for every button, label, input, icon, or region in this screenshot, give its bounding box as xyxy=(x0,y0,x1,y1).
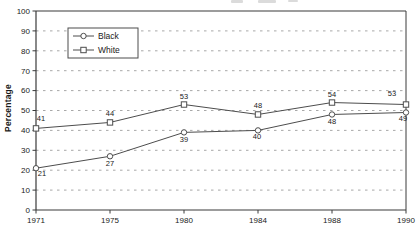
legend-marker-black xyxy=(81,33,86,38)
y-tick-label: 70 xyxy=(21,67,30,76)
legend-label-black: Black xyxy=(98,31,120,41)
y-tick-label: 100 xyxy=(17,7,31,16)
data-point-label: 48 xyxy=(254,101,262,110)
data-point-label: 41 xyxy=(37,114,45,123)
legend-label-white: White xyxy=(98,45,120,55)
data-point-label: 54 xyxy=(328,90,336,99)
y-tick-label: 50 xyxy=(21,106,30,115)
x-tick-label: 1980 xyxy=(175,216,193,225)
data-point-label: 27 xyxy=(106,159,114,168)
x-tick-label: 1975 xyxy=(101,216,119,225)
data-point-label: 39 xyxy=(180,135,188,144)
x-tick-label: 1984 xyxy=(249,216,267,225)
data-point-label: 21 xyxy=(38,169,46,178)
data-point-white xyxy=(107,120,112,125)
data-point-white xyxy=(255,112,260,117)
x-tick-label: 1990 xyxy=(397,216,415,225)
data-point-black xyxy=(181,130,186,135)
data-point-label: 53 xyxy=(180,92,188,101)
data-point-label: 49 xyxy=(399,114,407,123)
y-tick-label: 10 xyxy=(21,186,30,195)
y-tick-label: 40 xyxy=(21,126,30,135)
data-point-label: 40 xyxy=(253,132,261,141)
data-point-label: 44 xyxy=(106,109,114,118)
legend-marker-white xyxy=(81,47,86,52)
y-tick-label: 0 xyxy=(26,206,31,215)
y-tick-label: 30 xyxy=(21,146,30,155)
data-point-white xyxy=(181,102,186,107)
x-tick-label: 1971 xyxy=(27,216,45,225)
y-tick-label: 20 xyxy=(21,166,30,175)
data-point-white xyxy=(403,102,408,107)
chart-canvas: 0102030405060708090100197119751980198419… xyxy=(0,0,417,232)
series-line-black xyxy=(36,112,406,168)
series-line-white xyxy=(36,103,406,129)
x-tick-label: 1988 xyxy=(323,216,341,225)
data-point-white xyxy=(33,126,38,131)
line-chart: Percentage 01020304050607080901001971197… xyxy=(0,0,417,232)
data-point-label: 53 xyxy=(388,89,396,98)
data-point-black xyxy=(107,154,112,159)
data-point-label: 48 xyxy=(328,117,336,126)
y-tick-label: 60 xyxy=(21,86,30,95)
data-point-white xyxy=(329,100,334,105)
y-tick-label: 80 xyxy=(21,47,30,56)
y-tick-label: 90 xyxy=(21,27,30,36)
data-point-black xyxy=(329,112,334,117)
